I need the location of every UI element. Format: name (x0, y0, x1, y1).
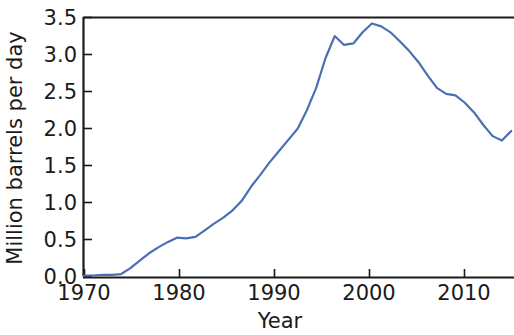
y-tick-label-2: 1.0 (44, 191, 77, 215)
x-tick-marks (85, 269, 465, 277)
x-axis-title: Year (257, 309, 303, 333)
y-axis-title: Million barrels per day (3, 31, 27, 264)
y-tick-label-1: 0.5 (44, 228, 77, 252)
chart-canvas: 0.0 0.5 1.0 1.5 2.0 2.5 3.0 3.5 1970 198… (0, 0, 514, 335)
x-tick-label-0: 1970 (57, 281, 110, 305)
y-tick-labels: 0.0 0.5 1.0 1.5 2.0 2.5 3.0 3.5 (44, 6, 77, 289)
y-tick-label-3: 1.5 (44, 154, 77, 178)
y-tick-label-7: 3.5 (44, 6, 77, 30)
x-tick-label-3: 2000 (342, 281, 395, 305)
x-tick-label-2: 1990 (247, 281, 300, 305)
y-tick-label-6: 3.0 (44, 43, 77, 67)
x-tick-label-4: 2010 (437, 281, 490, 305)
y-tick-label-5: 2.5 (44, 80, 77, 104)
y-tick-label-4: 2.0 (44, 117, 77, 141)
x-tick-labels: 1970 1980 1990 2000 2010 (57, 281, 490, 305)
x-tick-label-1: 1980 (152, 281, 205, 305)
plot-frame (83, 17, 514, 278)
line-chart: 0.0 0.5 1.0 1.5 2.0 2.5 3.0 3.5 1970 198… (0, 0, 514, 335)
y-tick-marks (84, 18, 92, 277)
data-series-line (84, 23, 511, 275)
